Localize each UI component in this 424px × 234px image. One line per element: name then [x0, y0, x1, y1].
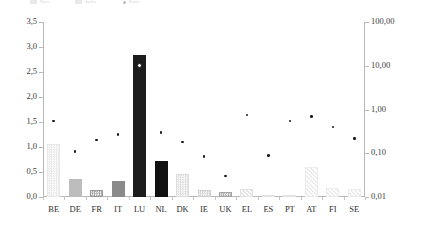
left-axis-tick: [39, 147, 43, 148]
x-axis-label-dk: DK: [172, 204, 193, 214]
x-axis-label-se: SE: [344, 204, 365, 214]
left-axis-tick-label: 1,5: [3, 117, 37, 126]
legend-item: Ratio: [123, 0, 140, 4]
chart-container: BarsIndexRatio 0,00,51,01,52,02,53,03,5 …: [0, 0, 424, 234]
x-axis-label-uk: UK: [215, 204, 236, 214]
left-axis-tick-label: 0,5: [3, 167, 37, 176]
bar-at: [305, 167, 318, 197]
data-point-se: [353, 137, 356, 140]
right-axis-tick: [365, 22, 369, 23]
right-axis-tick: [365, 110, 369, 111]
bar-lu: [133, 55, 146, 198]
x-axis-tick: [43, 197, 44, 200]
left-axis-tick-label: 3,0: [3, 42, 37, 51]
data-point-el: [246, 114, 249, 117]
data-point-dk: [181, 141, 184, 144]
bar-pt: [283, 195, 296, 198]
x-axis-tick: [129, 197, 130, 200]
x-axis-tick: [258, 197, 259, 200]
right-axis-tick-label: 10,00: [371, 61, 411, 70]
bar-es: [262, 195, 275, 197]
x-axis-label-fi: FI: [322, 204, 343, 214]
x-axis-label-lu: LU: [129, 204, 150, 214]
bar-dk: [176, 174, 189, 197]
data-point-nl: [160, 131, 163, 134]
left-axis-tick-label: 2,0: [3, 92, 37, 101]
data-point-at: [310, 115, 313, 118]
left-axis-tick: [39, 172, 43, 173]
left-axis-tick: [39, 97, 43, 98]
right-axis-tick-label: 100,00: [371, 17, 411, 26]
left-axis-tick: [39, 47, 43, 48]
legend-dot-icon: [123, 1, 126, 4]
x-axis-label-de: DE: [64, 204, 85, 214]
data-point-be: [52, 120, 55, 123]
x-axis-tick: [279, 197, 280, 200]
left-axis-tick-label: 2,5: [3, 67, 37, 76]
bar-fi: [326, 188, 339, 197]
x-axis-label-nl: NL: [150, 204, 171, 214]
legend-bar-icon: [75, 0, 82, 4]
x-axis-tick: [193, 197, 194, 200]
right-axis-tick-label: 0,01: [371, 192, 411, 201]
left-axis-tick: [39, 22, 43, 23]
bar-it: [112, 181, 125, 198]
data-point-fr: [95, 139, 98, 142]
bar-nl: [155, 161, 168, 198]
data-point-ie: [203, 155, 206, 158]
legend-item-label: Ratio: [129, 0, 140, 4]
x-axis-label-el: EL: [236, 204, 257, 214]
right-axis-tick-label: 1,00: [371, 105, 411, 114]
data-point-it: [117, 133, 120, 136]
legend-item-label: Index: [85, 0, 96, 4]
data-point-fi: [332, 126, 335, 129]
legend-bar-icon: [30, 0, 37, 4]
left-axis-line: [43, 22, 44, 197]
x-axis-label-it: IT: [107, 204, 128, 214]
left-axis-tick-label: 1,0: [3, 142, 37, 151]
bar-se: [348, 189, 361, 198]
data-point-de: [74, 150, 77, 153]
x-axis-tick: [215, 197, 216, 200]
x-axis-label-pt: PT: [279, 204, 300, 214]
x-axis-label-be: BE: [43, 204, 64, 214]
bar-uk: [219, 192, 232, 197]
x-axis-tick: [344, 197, 345, 200]
x-axis-tick: [172, 197, 173, 200]
x-axis-tick: [86, 197, 87, 200]
x-axis-label-at: AT: [301, 204, 322, 214]
right-axis-tick: [365, 66, 369, 67]
x-axis-tick: [64, 197, 65, 200]
x-axis-tick: [107, 197, 108, 200]
bar-ie: [198, 190, 211, 197]
data-point-es: [267, 154, 270, 157]
bar-de: [69, 179, 82, 198]
bar-be: [47, 144, 60, 198]
left-axis-tick-label: 0,0: [3, 192, 37, 201]
bar-el: [240, 189, 253, 197]
legend-item: Bars: [30, 0, 49, 4]
data-point-pt: [289, 120, 292, 123]
right-axis-tick-label: 0,10: [371, 148, 411, 157]
right-axis-tick: [365, 153, 369, 154]
x-axis-tick: [322, 197, 323, 200]
legend-item-label: Bars: [40, 0, 49, 4]
left-axis-tick: [39, 72, 43, 73]
chart-legend: BarsIndexRatio: [30, 0, 200, 4]
x-axis-label-ie: IE: [193, 204, 214, 214]
left-axis-tick-label: 3,5: [3, 17, 37, 26]
x-axis-tick: [301, 197, 302, 200]
x-axis-label-es: ES: [258, 204, 279, 214]
legend-item: Index: [75, 0, 96, 4]
left-axis-tick: [39, 122, 43, 123]
x-axis-tick: [150, 197, 151, 200]
x-axis-tick: [236, 197, 237, 200]
x-axis-label-fr: FR: [86, 204, 107, 214]
data-point-uk: [224, 175, 227, 178]
bar-fr: [90, 190, 103, 198]
plot-area: 0,00,51,01,52,02,53,03,5 0,010,101,0010,…: [43, 22, 365, 197]
x-axis-tick: [365, 197, 366, 200]
